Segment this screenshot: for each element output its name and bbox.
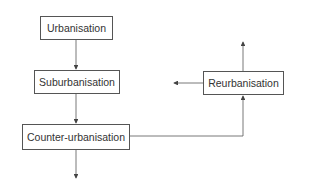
node-urbanisation: Urbanisation [40,16,113,40]
node-label: Suburbanisation [39,76,115,88]
node-counter-urbanisation: Counter-urbanisation [22,124,130,150]
node-reurbanisation: Reurbanisation [203,71,284,95]
node-label: Urbanisation [47,22,106,34]
node-label: Reurbanisation [208,77,279,89]
node-label: Counter-urbanisation [27,131,125,143]
node-suburbanisation: Suburbanisation [34,70,120,94]
arrow-counter-to-reurban [130,96,243,136]
